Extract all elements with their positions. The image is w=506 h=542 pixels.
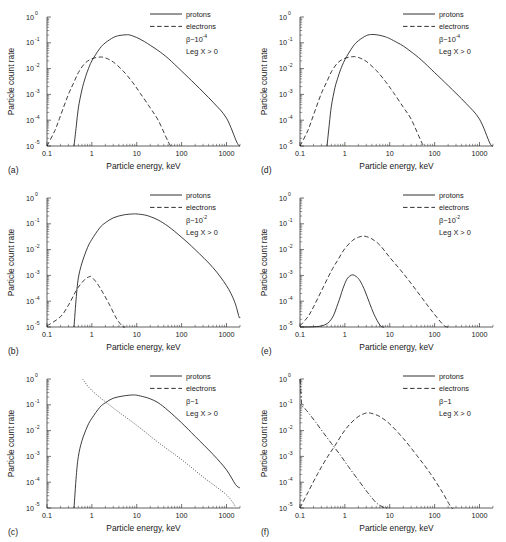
legend-condition-label: Leg X > 0 (439, 409, 471, 418)
x-tick-label: 100 (176, 511, 188, 520)
plot-area: 0.1110100100010010-110-210-310-410-5Part… (0, 0, 253, 180)
x-axis-title: Particle energy, keV (359, 342, 434, 352)
x-tick-label: 1000 (218, 511, 234, 520)
panel-letter: (e) (261, 346, 272, 356)
y-tick-label: 10 (26, 297, 34, 306)
x-axis-title: Particle energy, keV (106, 342, 181, 352)
y-tick-label: 10 (26, 504, 34, 513)
panel-letter: (f) (261, 527, 269, 537)
x-tick-label: 0.1 (42, 149, 52, 158)
legend-label-protons: protons (186, 10, 211, 19)
legend-label-protons: protons (186, 191, 211, 200)
legend-condition-label: Leg X > 0 (439, 47, 471, 56)
y-tick-label: 10 (26, 219, 34, 228)
y-tick-exponent: -4 (35, 476, 40, 482)
legend-label-electrons: electrons (439, 203, 469, 212)
legend-condition-label: Leg X > 0 (186, 228, 218, 237)
y-tick-exponent: 0 (35, 372, 38, 378)
plot-area: 0.1110100100010010-110-210-310-410-5Part… (253, 0, 506, 180)
y-tick-label: 10 (279, 38, 287, 47)
x-tick-label: 100 (429, 149, 441, 158)
x-tick-label: 1 (343, 149, 347, 158)
x-tick-label: 100 (176, 149, 188, 158)
y-tick-label: 10 (26, 478, 34, 487)
y-tick-exponent: -1 (35, 36, 40, 42)
x-tick-label: 0.1 (295, 330, 305, 339)
y-tick-exponent: -4 (288, 114, 293, 120)
y-tick-label: 10 (279, 452, 287, 461)
y-tick-label: 10 (279, 375, 287, 384)
y-tick-exponent: -4 (35, 295, 40, 301)
y-axis-title: Particle count rate (6, 47, 16, 115)
y-tick-label: 10 (26, 38, 34, 47)
panel-d: 0.1110100100010010-110-210-310-410-5Part… (253, 0, 506, 180)
x-tick-label: 1 (90, 511, 94, 520)
y-tick-exponent: -3 (35, 269, 40, 275)
y-tick-label: 10 (26, 375, 34, 384)
y-tick-exponent: 0 (288, 372, 291, 378)
legend-label-protons: protons (439, 10, 464, 19)
y-tick-label: 10 (26, 142, 34, 151)
panel-letter: (c) (8, 527, 18, 537)
curve-electrons (300, 413, 453, 509)
x-tick-label: 100 (176, 330, 188, 339)
y-tick-exponent: -4 (35, 114, 40, 120)
y-axis-title: Particle count rate (6, 228, 16, 296)
x-tick-label: 100 (429, 511, 441, 520)
panel-b: 0.1110100100010010-110-210-310-410-5Part… (0, 181, 253, 361)
y-tick-exponent: -1 (288, 217, 293, 223)
curve-electrons (300, 57, 425, 146)
x-tick-label: 0.1 (42, 511, 52, 520)
panel-letter: (d) (261, 165, 272, 175)
y-tick-exponent: -2 (35, 424, 40, 430)
x-tick-label: 1 (90, 149, 94, 158)
y-tick-label: 10 (26, 452, 34, 461)
x-axis-title: Particle energy, keV (106, 161, 181, 171)
legend-condition-label: Leg X > 0 (186, 47, 218, 56)
y-tick-exponent: -3 (288, 450, 293, 456)
x-tick-label: 1 (343, 511, 347, 520)
x-tick-label: 0.1 (295, 149, 305, 158)
y-tick-exponent: -3 (288, 269, 293, 275)
y-tick-exponent: -1 (35, 217, 40, 223)
plot-area: 0.1110100100010010-110-210-310-410-5Part… (253, 362, 506, 542)
y-tick-label: 10 (279, 271, 287, 280)
y-axis-title: Particle count rate (259, 409, 269, 477)
y-tick-label: 10 (279, 64, 287, 73)
legend-beta-label: β~10 (186, 216, 203, 225)
y-tick-exponent: -2 (288, 62, 293, 68)
legend-beta-exponent: -4 (456, 33, 461, 39)
x-tick-label: 1000 (471, 511, 487, 520)
y-tick-label: 10 (26, 64, 34, 73)
y-tick-exponent: -5 (35, 501, 40, 507)
x-tick-label: 1000 (471, 330, 487, 339)
y-tick-label: 10 (279, 323, 287, 332)
y-tick-label: 10 (279, 219, 287, 228)
y-tick-exponent: -5 (35, 139, 40, 145)
y-tick-label: 10 (279, 478, 287, 487)
legend-label-protons: protons (439, 191, 464, 200)
curve-electrons (47, 57, 172, 146)
x-tick-label: 10 (133, 330, 141, 339)
legend-condition-label: Leg X > 0 (439, 228, 471, 237)
x-tick-label: 1000 (218, 330, 234, 339)
curve-electrons (47, 276, 125, 327)
curve-protons (300, 275, 384, 327)
legend-label-electrons: electrons (439, 22, 469, 31)
y-tick-label: 10 (26, 245, 34, 254)
y-tick-exponent: -1 (35, 398, 40, 404)
plot-area: 0.1110100100010010-110-210-310-410-5Part… (0, 181, 253, 361)
y-tick-label: 10 (279, 13, 287, 22)
panel-letter: (b) (8, 346, 19, 356)
legend-beta-exponent: -2 (456, 214, 461, 220)
y-tick-exponent: -4 (288, 476, 293, 482)
legend-beta-label: β~1 (439, 397, 452, 406)
y-tick-label: 10 (26, 13, 34, 22)
y-tick-label: 10 (279, 142, 287, 151)
y-tick-label: 10 (279, 297, 287, 306)
panel-c: 0.1110100100010010-110-210-310-410-5Part… (0, 362, 253, 542)
y-tick-label: 10 (279, 90, 287, 99)
x-tick-label: 10 (386, 330, 394, 339)
curve-protons (300, 379, 390, 508)
y-tick-label: 10 (279, 504, 287, 513)
